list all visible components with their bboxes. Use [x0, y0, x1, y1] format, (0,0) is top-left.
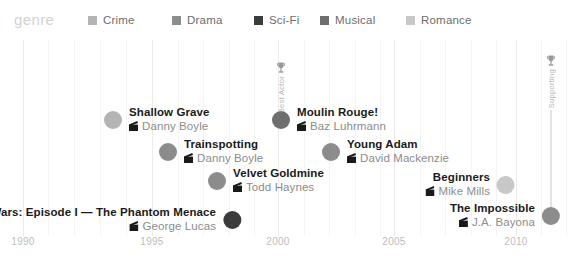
gridline-minor: [304, 40, 305, 236]
legend-item-label: Drama: [187, 14, 223, 26]
data-point-marker[interactable]: [322, 143, 340, 161]
data-point-marker[interactable]: [223, 211, 241, 229]
data-point[interactable]: Star Wars: Episode I — The Phantom Menac…: [0, 206, 241, 233]
legend: genre CrimeDramaSci-FiMusicalRomance: [0, 0, 573, 40]
film-director-row: Mike Mills: [426, 185, 490, 199]
axis-tick-label: 2010: [504, 236, 527, 247]
film-director-row: Todd Haynes: [233, 181, 314, 195]
data-point-marker[interactable]: [272, 111, 290, 129]
film-director: J.A. Bayona: [472, 216, 535, 230]
legend-item-musical[interactable]: Musical: [320, 14, 375, 26]
film-director: Todd Haynes: [246, 181, 314, 195]
data-point[interactable]: TrainspottingDanny Boyle: [159, 138, 263, 165]
data-point[interactable]: Velvet GoldmineTodd Haynes: [208, 167, 324, 194]
axis-tick-label: 1995: [140, 236, 163, 247]
legend-item-label: Romance: [421, 14, 472, 26]
genre-timeline-chart: genre CrimeDramaSci-FiMusicalRomance 199…: [0, 0, 573, 268]
film-title: Moulin Rouge!: [297, 106, 378, 120]
gridline-minor: [566, 40, 567, 236]
film-director: David Mackenzie: [360, 152, 449, 166]
axis-tick-label: 2005: [382, 236, 405, 247]
award-annotation-label: Supporting: [547, 69, 556, 108]
legend-item-crime[interactable]: Crime: [88, 14, 135, 26]
data-point-text: Young AdamDavid Mackenzie: [347, 138, 449, 165]
film-title: The Impossible: [450, 202, 535, 216]
trophy-icon: [547, 55, 556, 67]
legend-item-sci-fi[interactable]: Sci-Fi: [254, 14, 300, 26]
clapperboard-icon: [129, 121, 138, 131]
clapperboard-icon: [130, 221, 139, 231]
film-director-row: David Mackenzie: [347, 152, 449, 166]
film-director-row: Danny Boyle: [184, 152, 263, 166]
trophy-icon: [277, 62, 286, 74]
film-title: Beginners: [433, 171, 490, 185]
data-point-text: The ImpossibleJ.A. Bayona: [450, 202, 535, 229]
film-title: Shallow Grave: [129, 106, 210, 120]
clapperboard-icon: [184, 153, 193, 163]
clapperboard-icon: [426, 186, 435, 196]
legend-swatch-icon: [254, 16, 263, 25]
legend-swatch-icon: [320, 16, 329, 25]
legend-item-romance[interactable]: Romance: [406, 14, 472, 26]
film-director: Baz Luhrmann: [310, 120, 386, 134]
data-point-text: BeginnersMike Mills: [426, 171, 490, 198]
legend-swatch-icon: [172, 16, 181, 25]
award-annotation-stem: [551, 110, 552, 207]
film-director: George Lucas: [143, 220, 216, 234]
data-point-marker[interactable]: [497, 176, 515, 194]
legend-item-label: Musical: [335, 14, 375, 26]
x-axis: 19901995200020052010: [0, 236, 573, 268]
legend-item-label: Crime: [103, 14, 135, 26]
data-point-text: Star Wars: Episode I — The Phantom Menac…: [0, 206, 216, 233]
data-point[interactable]: Young AdamDavid Mackenzie: [322, 138, 449, 165]
clapperboard-icon: [233, 182, 242, 192]
film-director: Danny Boyle: [197, 152, 263, 166]
film-director-row: Baz Luhrmann: [297, 120, 386, 134]
film-title: Star Wars: Episode I — The Phantom Menac…: [0, 206, 216, 220]
legend-swatch-icon: [406, 16, 415, 25]
data-point[interactable]: Shallow GraveDanny Boyle: [104, 106, 210, 133]
data-point[interactable]: The ImpossibleJ.A. Bayona: [450, 202, 560, 229]
clapperboard-icon: [297, 121, 306, 131]
film-director-row: Danny Boyle: [129, 120, 208, 134]
film-director-row: J.A. Bayona: [459, 216, 535, 230]
film-director: Mike Mills: [439, 185, 490, 199]
legend-swatch-icon: [88, 16, 97, 25]
axis-tick-label: 2000: [266, 236, 289, 247]
data-point-marker[interactable]: [104, 111, 122, 129]
film-title: Velvet Goldmine: [233, 167, 324, 181]
film-director: Danny Boyle: [142, 120, 208, 134]
data-point-text: Shallow GraveDanny Boyle: [129, 106, 210, 133]
axis-tick-label: 1990: [11, 236, 34, 247]
film-director-row: George Lucas: [130, 220, 216, 234]
film-title: Young Adam: [347, 138, 418, 152]
clapperboard-icon: [459, 217, 468, 227]
data-point[interactable]: BeginnersMike Mills: [426, 171, 515, 198]
data-point-marker[interactable]: [542, 207, 560, 225]
data-point-text: Moulin Rouge!Baz Luhrmann: [297, 106, 386, 133]
legend-title: genre: [14, 11, 54, 28]
data-point-text: TrainspottingDanny Boyle: [184, 138, 263, 165]
data-point-text: Velvet GoldmineTodd Haynes: [233, 167, 324, 194]
data-point-marker[interactable]: [208, 172, 226, 190]
legend-item-drama[interactable]: Drama: [172, 14, 223, 26]
clapperboard-icon: [347, 153, 356, 163]
data-point[interactable]: Moulin Rouge!Baz Luhrmann: [272, 106, 386, 133]
legend-item-label: Sci-Fi: [269, 14, 300, 26]
film-title: Trainspotting: [184, 138, 258, 152]
data-point-marker[interactable]: [159, 143, 177, 161]
award-annotation: Supporting: [547, 55, 556, 207]
